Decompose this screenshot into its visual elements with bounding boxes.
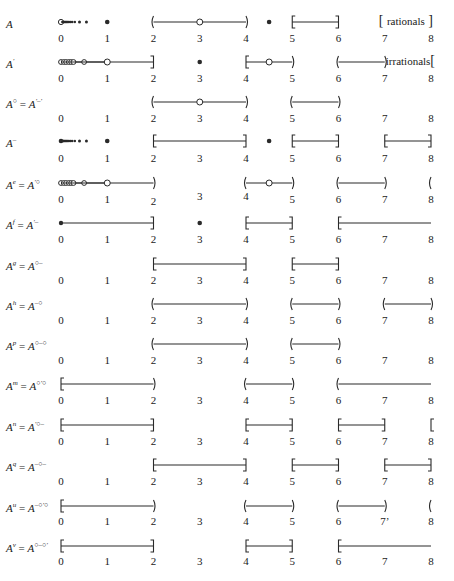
set-symbol: A: [6, 340, 13, 352]
equals-sign: =: [16, 502, 28, 514]
axis-tick-label: 1: [101, 112, 113, 124]
equals-sign: =: [16, 300, 28, 312]
axis-tick-label: 7: [379, 435, 391, 447]
axis-tick-label: 8: [425, 112, 437, 124]
axis-tick-label: 5: [286, 152, 298, 164]
axis-tick-label: 3: [194, 475, 206, 487]
axis-tick-label: 4: [240, 475, 252, 487]
open-point-icon: [197, 99, 203, 105]
axis-tick-label: 8: [425, 274, 437, 286]
axis-tick-label: 7: [379, 394, 391, 406]
number-lines-canvas: [0, 0, 454, 581]
solid-point-icon: [197, 221, 202, 226]
open-right-paren-icon: [292, 500, 294, 512]
axis-tick-label: 4: [240, 394, 252, 406]
equals-sign: =: [16, 260, 28, 272]
axis-tick-label: 6: [333, 112, 345, 124]
operator-superscript: ○′○: [36, 379, 46, 387]
axis-tick-label: 7: [379, 233, 391, 245]
axis-tick-label: 1: [101, 555, 113, 567]
axis-tick-label: 2: [148, 314, 160, 326]
operator-superscript: ′○–: [35, 420, 44, 428]
axis-tick-label: 0: [55, 475, 67, 487]
open-left-paren-icon: [245, 378, 247, 390]
set-symbol: A: [6, 137, 13, 149]
axis-tick-label: 5: [286, 475, 298, 487]
axis-tick-label: 1: [101, 72, 113, 84]
row-label: Ap = A○–○: [6, 337, 47, 352]
axis-tick-label: 0: [55, 32, 67, 44]
axis-tick-label: 3: [194, 394, 206, 406]
open-left-paren-icon: [152, 338, 154, 350]
axis-tick-label: 2: [148, 515, 160, 527]
annotation-text: irrationals: [386, 55, 431, 67]
operator-superscript: ′–: [33, 218, 38, 226]
axis-tick-label: 8: [425, 233, 437, 245]
open-point-icon: [266, 59, 272, 65]
row-label: Aq = A–○–: [6, 458, 46, 473]
axis-tick-label: 4: [240, 190, 252, 202]
row-label: A–: [6, 134, 16, 149]
set-symbol: A: [6, 219, 13, 231]
axis-tick-label: 4: [240, 314, 252, 326]
axis-tick-label: 4: [240, 555, 252, 567]
open-right-paren-icon: [431, 298, 433, 310]
axis-tick-label: 0: [55, 394, 67, 406]
set-symbol: A: [6, 300, 13, 312]
set-symbol: A: [28, 260, 35, 272]
axis-tick-label: 5: [286, 515, 298, 527]
open-left-paren-icon: [245, 177, 247, 189]
axis-tick-label: 7: [379, 314, 391, 326]
operator-superscript: –○: [35, 299, 43, 307]
axis-tick-label: 1: [101, 233, 113, 245]
row-label: An = A′○–: [6, 418, 44, 433]
open-right-paren-icon: [154, 177, 156, 189]
axis-tick-label: 7’: [379, 515, 391, 527]
equals-sign: =: [16, 340, 28, 352]
open-left-paren-icon: [430, 177, 432, 189]
axis-tick-label: 7: [379, 72, 391, 84]
axis-tick-label: 8: [425, 72, 437, 84]
open-left-paren-icon: [152, 96, 154, 108]
axis-tick-label: 8: [425, 193, 437, 205]
axis-tick-label: 0: [55, 152, 67, 164]
solid-point-icon: [197, 60, 202, 65]
set-symbol: A: [6, 421, 13, 433]
axis-tick-label: 5: [286, 193, 298, 205]
set-annotation: [ rationals ]: [379, 15, 433, 27]
axis-tick-label: 3: [194, 515, 206, 527]
axis-tick-label: 3: [194, 190, 206, 202]
open-left-paren-icon: [245, 500, 247, 512]
axis-tick-label: 1: [101, 274, 113, 286]
axis-tick-label: 4: [240, 515, 252, 527]
axis-tick-label: 5: [286, 112, 298, 124]
axis-tick-label: 3: [194, 233, 206, 245]
set-symbol: A: [6, 260, 13, 272]
axis-tick-label: 5: [286, 274, 298, 286]
axis-tick-label: 6: [333, 193, 345, 205]
open-right-paren-icon: [154, 500, 156, 512]
set-symbol: A: [6, 542, 13, 554]
axis-tick-label: 5: [286, 394, 298, 406]
axis-tick-label: 0: [55, 314, 67, 326]
axis-tick-label: 2: [148, 233, 160, 245]
row-label: A: [6, 15, 13, 30]
open-point-icon: [266, 180, 272, 186]
axis-tick-label: 6: [333, 394, 345, 406]
axis-tick-label: 6: [333, 515, 345, 527]
axis-tick-label: 4: [240, 274, 252, 286]
axis-tick-label: 8: [425, 475, 437, 487]
sequence-point-icon: [85, 140, 88, 143]
open-left-paren-icon: [337, 500, 339, 512]
open-right-paren-icon: [339, 96, 341, 108]
axis-tick-label: 2: [148, 72, 160, 84]
equals-sign: =: [16, 542, 28, 554]
equals-sign: =: [16, 179, 28, 191]
axis-tick-label: 2: [148, 112, 160, 124]
axis-tick-label: 7: [379, 274, 391, 286]
axis-tick-label: 1: [101, 394, 113, 406]
operator-superscript: ○–○′: [34, 541, 48, 549]
operator-superscript: ′○: [34, 178, 40, 186]
axis-tick-label: 3: [194, 314, 206, 326]
axis-tick-label: 2: [148, 274, 160, 286]
